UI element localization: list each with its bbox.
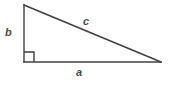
right-triangle-figure: b c a xyxy=(0,0,171,85)
side-label-b: b xyxy=(5,27,12,38)
hypotenuse-line xyxy=(24,5,161,62)
side-label-c: c xyxy=(83,16,89,27)
triangle-drawing xyxy=(0,0,171,85)
right-angle-square-icon xyxy=(24,52,34,62)
side-label-a: a xyxy=(76,67,82,78)
